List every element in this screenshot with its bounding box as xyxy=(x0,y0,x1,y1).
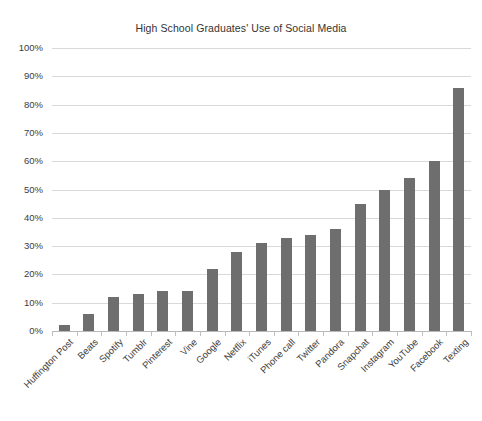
x-axis-tick xyxy=(175,331,176,336)
x-axis-tick xyxy=(101,331,102,336)
bar xyxy=(207,269,218,331)
y-axis-tick-label: 40% xyxy=(24,213,43,223)
y-axis-tick-label: 70% xyxy=(24,128,43,138)
bar xyxy=(133,294,144,331)
y-axis-tick-label: 50% xyxy=(24,185,43,195)
plot-area xyxy=(52,48,471,331)
x-axis-tick xyxy=(126,331,127,336)
bars-container xyxy=(52,48,471,331)
bar xyxy=(157,291,168,331)
bar xyxy=(256,243,267,331)
x-axis-tick xyxy=(225,331,226,336)
bar xyxy=(429,161,440,331)
bar xyxy=(83,314,94,331)
y-axis-tick-label: 30% xyxy=(24,241,43,251)
x-axis-tick xyxy=(200,331,201,336)
bar xyxy=(404,178,415,331)
x-axis-tick xyxy=(52,331,53,336)
x-axis-tick xyxy=(298,331,299,336)
x-axis-tick xyxy=(471,331,472,336)
y-axis-tick-label: 90% xyxy=(24,72,43,82)
y-axis-labels: 100%90%80%70%60%50%40%30%20%10%0% xyxy=(0,48,48,331)
x-axis-tick xyxy=(422,331,423,336)
bar xyxy=(231,252,242,331)
chart-title: High School Graduates' Use of Social Med… xyxy=(0,22,482,34)
x-axis-tick xyxy=(274,331,275,336)
x-axis-ticks xyxy=(52,331,471,336)
y-axis-tick-label: 20% xyxy=(24,270,43,280)
bar xyxy=(355,204,366,331)
bar xyxy=(453,88,464,331)
y-axis-tick-label: 80% xyxy=(24,100,43,110)
x-axis-tick xyxy=(323,331,324,336)
bar xyxy=(379,190,390,332)
y-axis-tick-label: 60% xyxy=(24,156,43,166)
x-axis-tick xyxy=(249,331,250,336)
x-axis-tick xyxy=(348,331,349,336)
bar xyxy=(108,297,119,331)
y-axis-tick-label: 0% xyxy=(29,326,43,336)
x-axis-labels: Huffington PostBeatsSpotifyTumblrPintere… xyxy=(52,337,471,421)
y-axis-tick-label: 10% xyxy=(24,298,43,308)
bar xyxy=(330,229,341,331)
x-axis-tick xyxy=(77,331,78,336)
bar-chart: High School Graduates' Use of Social Med… xyxy=(0,0,482,421)
x-axis-tick xyxy=(397,331,398,336)
bar xyxy=(305,235,316,331)
bar xyxy=(281,238,292,331)
x-axis-tick xyxy=(372,331,373,336)
x-axis-tick xyxy=(446,331,447,336)
bar xyxy=(182,291,193,331)
y-axis-tick-label: 100% xyxy=(19,43,43,53)
x-axis-tick xyxy=(151,331,152,336)
